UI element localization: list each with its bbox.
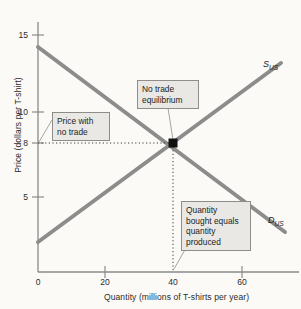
demand-curve-subscript: US bbox=[275, 220, 284, 227]
chart-canvas bbox=[0, 0, 301, 309]
x-axis-title: Quantity (millions of T-shirts per year) bbox=[104, 292, 249, 302]
x-tick-label-60: 60 bbox=[232, 277, 252, 287]
callout-no-trade-equilibrium: No trade equilibrium bbox=[137, 80, 199, 109]
callout-quantity-line-4: produced bbox=[186, 237, 246, 248]
equilibrium-callout-leader-line bbox=[168, 108, 173, 140]
y-tick-label-15: 15 bbox=[8, 30, 28, 40]
callout-quantity-line-2: bought equals bbox=[186, 216, 246, 227]
x-tick-label-40: 40 bbox=[163, 277, 183, 287]
price-callout-leader-line bbox=[39, 120, 52, 142]
callout-price-with-no-trade: Price with no trade bbox=[52, 112, 110, 141]
callout-quantity-line-1: Quantity bbox=[186, 205, 246, 216]
x-tick-label-0: 0 bbox=[28, 277, 48, 287]
x-tick-label-20: 20 bbox=[95, 277, 115, 287]
callout-quantity-line-3: quantity bbox=[186, 226, 246, 237]
callout-equilibrium-line-1: No trade bbox=[142, 84, 194, 95]
equilibrium-marker bbox=[169, 139, 178, 148]
supply-curve-subscript: US bbox=[269, 64, 278, 71]
callout-quantity-bought-equals-produced: Quantity bought equals quantity produced bbox=[181, 201, 251, 251]
callout-price-line-2: no trade bbox=[57, 127, 105, 138]
demand-curve-label: DUS bbox=[268, 215, 284, 227]
supply-demand-chart: 15 10 8 5 0 20 40 60 Price (dollars per … bbox=[0, 0, 301, 309]
y-axis-title: Price (dollars per T-shirt) bbox=[13, 55, 23, 195]
callout-price-line-1: Price with bbox=[57, 116, 105, 127]
supply-curve-label: SUS bbox=[263, 59, 278, 71]
callout-equilibrium-line-2: equilibrium bbox=[142, 95, 194, 106]
